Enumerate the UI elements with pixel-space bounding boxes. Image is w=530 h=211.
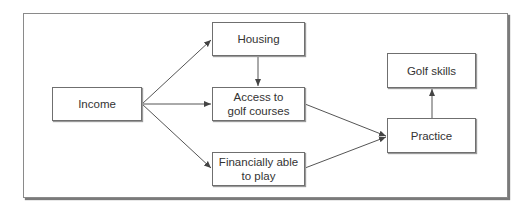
edge-income-housing — [142, 40, 211, 104]
node-label: Housing — [237, 32, 279, 46]
node-income: Income — [52, 87, 142, 121]
edge-access-practice — [305, 104, 386, 136]
node-access-to-golf-courses: Access to golf courses — [212, 87, 305, 121]
node-label: Practice — [411, 129, 453, 143]
node-label: Financially able to play — [219, 155, 298, 183]
node-housing: Housing — [212, 22, 305, 56]
node-label: Golf skills — [407, 64, 456, 78]
node-label: Access to golf courses — [227, 90, 289, 118]
node-financially-able-to-play: Financially able to play — [212, 152, 305, 186]
node-practice: Practice — [387, 118, 476, 153]
edge-financially-practice — [305, 137, 386, 168]
edge-income-financially — [142, 104, 211, 168]
node-label: Income — [78, 97, 116, 111]
node-golf-skills: Golf skills — [387, 53, 476, 88]
